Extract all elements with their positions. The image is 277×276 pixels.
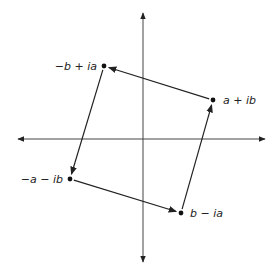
- rotation-arrows: [71, 67, 211, 211]
- point-p3: [68, 177, 73, 182]
- complex-plane-rotation-diagram: a + ib−b + ia−a − ibb − ia: [0, 0, 277, 276]
- point-p2: [102, 64, 107, 69]
- arrow-p4-to-p1: [182, 105, 212, 209]
- arrow-p2-to-p3: [71, 70, 102, 174]
- point-label: −b + ia: [55, 60, 97, 73]
- arrow-p3-to-p4: [74, 180, 176, 211]
- point-p4: [179, 211, 184, 216]
- point-label: −a − ib: [21, 173, 63, 186]
- point-label: b − ia: [190, 207, 223, 220]
- point-label: a + ib: [223, 94, 256, 107]
- point-p1: [211, 98, 216, 103]
- points: a + ib−b + ia−a − ibb − ia: [21, 60, 256, 220]
- axes: [18, 13, 265, 262]
- arrow-p1-to-p2: [109, 67, 209, 98]
